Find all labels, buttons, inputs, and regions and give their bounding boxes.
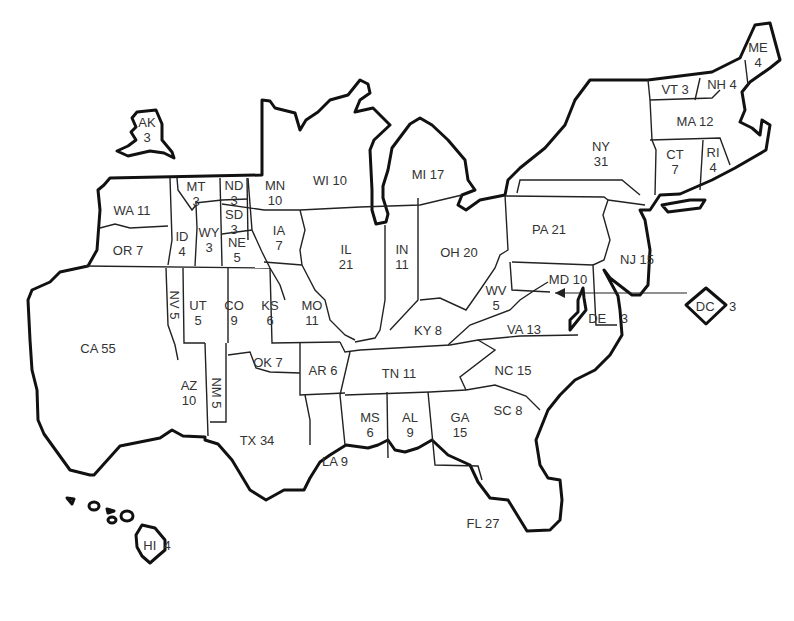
state-label-md: MD 10 bbox=[549, 272, 587, 287]
state-label-ma: MA 12 bbox=[677, 114, 714, 129]
state-label-ca: CA 55 bbox=[80, 341, 115, 356]
state-label-va: VA 13 bbox=[507, 322, 541, 337]
state-abbr: OR bbox=[113, 243, 133, 258]
state-abbr: ME bbox=[748, 40, 768, 55]
state-votes: 4 bbox=[176, 244, 189, 259]
state-abbr: NJ bbox=[620, 252, 636, 267]
state-label-co: CO9 bbox=[224, 298, 244, 328]
state-abbr: CT bbox=[666, 147, 683, 162]
state-abbr: MN bbox=[265, 178, 285, 193]
state-label-nm: NM 5 bbox=[209, 377, 224, 408]
state-label-nj: NJ 15 bbox=[620, 252, 654, 267]
state-votes: 4 bbox=[748, 55, 768, 70]
state-votes: 8 bbox=[435, 323, 442, 338]
state-abbr: MI bbox=[412, 167, 426, 182]
state-label-nc: NC 15 bbox=[495, 363, 532, 378]
state-label-in: IN11 bbox=[395, 242, 409, 272]
state-abbr: AL bbox=[402, 410, 418, 425]
state-abbr: OH bbox=[440, 245, 460, 260]
state-abbr: OK bbox=[253, 355, 272, 370]
state-label-mn: MN10 bbox=[265, 178, 285, 208]
state-votes: 17 bbox=[430, 167, 444, 182]
state-votes: 34 bbox=[260, 433, 274, 448]
state-abbr: GA bbox=[451, 410, 470, 425]
state-votes: 11 bbox=[137, 203, 151, 218]
state-abbr: MS bbox=[360, 410, 380, 425]
state-votes: 4 bbox=[164, 538, 171, 553]
state-abbr: WA bbox=[114, 203, 134, 218]
state-abbr: VA bbox=[507, 322, 523, 337]
state-label-ms: MS6 bbox=[360, 410, 380, 440]
state-label-az: AZ10 bbox=[181, 378, 198, 408]
state-label-id: ID4 bbox=[176, 229, 189, 259]
state-abbr: SC bbox=[494, 403, 512, 418]
state-abbr: NM bbox=[209, 377, 224, 397]
state-abbr: VT bbox=[661, 82, 677, 97]
state-abbr: WV bbox=[486, 283, 507, 298]
state-label-oh: OH 20 bbox=[440, 245, 478, 260]
state-label-ky: KY 8 bbox=[414, 323, 442, 338]
state-abbr: FL bbox=[467, 516, 482, 531]
state-abbr: MT bbox=[187, 179, 206, 194]
state-abbr: UT bbox=[189, 298, 206, 313]
state-abbr: DE bbox=[588, 311, 606, 326]
state-votes: 4 bbox=[730, 77, 737, 92]
state-votes: 11 bbox=[395, 257, 409, 272]
state-abbr: DC bbox=[696, 299, 715, 314]
state-votes: 4 bbox=[707, 160, 720, 175]
state-abbr: KS bbox=[261, 298, 278, 313]
state-label-la: LA 9 bbox=[322, 454, 348, 469]
state-abbr: AK bbox=[138, 115, 155, 130]
state-votes: 3 bbox=[187, 194, 206, 209]
state-label-ct: CT7 bbox=[666, 147, 683, 177]
state-votes: 3 bbox=[621, 311, 628, 326]
state-votes: 7 bbox=[136, 243, 143, 258]
state-votes: 3 bbox=[729, 299, 736, 314]
state-votes: 8 bbox=[515, 403, 522, 418]
state-votes: 11 bbox=[302, 313, 323, 328]
state-votes: 3 bbox=[199, 240, 220, 255]
state-label-ny: NY31 bbox=[592, 139, 610, 169]
state-abbr: WY bbox=[199, 225, 220, 240]
state-label-nh: NH 4 bbox=[707, 77, 737, 92]
state-abbr: RI bbox=[707, 145, 720, 160]
state-label-ne: NE5 bbox=[228, 235, 246, 265]
state-votes: 5 bbox=[228, 250, 246, 265]
state-abbr: CO bbox=[224, 298, 244, 313]
state-votes: 12 bbox=[699, 114, 713, 129]
state-abbr: NC bbox=[495, 363, 514, 378]
state-votes: 10 bbox=[333, 173, 347, 188]
state-label-mi: MI 17 bbox=[412, 167, 445, 182]
state-label-vt: VT 3 bbox=[661, 82, 688, 97]
state-label-wv: WV5 bbox=[486, 283, 507, 313]
state-label-tn: TN 11 bbox=[382, 366, 416, 381]
state-abbr: NE bbox=[228, 235, 246, 250]
state-abbr: IN bbox=[395, 242, 409, 257]
state-votes: 27 bbox=[485, 516, 499, 531]
state-abbr: AZ bbox=[181, 378, 198, 393]
state-label-fl: FL 27 bbox=[467, 516, 500, 531]
hawaii-islands bbox=[67, 498, 165, 563]
state-votes: 21 bbox=[339, 257, 353, 272]
state-votes: 15 bbox=[451, 425, 470, 440]
state-label-wi: WI 10 bbox=[313, 173, 347, 188]
state-votes: 3 bbox=[138, 130, 155, 145]
state-abbr: IL bbox=[339, 242, 353, 257]
state-label-nv: NV 5 bbox=[167, 291, 182, 320]
state-votes: 10 bbox=[573, 272, 587, 287]
state-votes: 15 bbox=[517, 363, 531, 378]
state-abbr: NH bbox=[707, 77, 726, 92]
state-label-sc: SC 8 bbox=[494, 403, 523, 418]
state-votes: 55 bbox=[101, 341, 115, 356]
state-label-wy: WY3 bbox=[199, 225, 220, 255]
state-abbr: TN bbox=[382, 366, 399, 381]
state-votes: 11 bbox=[403, 366, 417, 381]
state-label-ga: GA15 bbox=[451, 410, 470, 440]
state-abbr: MO bbox=[302, 298, 323, 313]
state-label-pa: PA 21 bbox=[532, 222, 566, 237]
state-votes: 21 bbox=[551, 222, 565, 237]
state-label-ut: UT5 bbox=[189, 298, 206, 328]
state-votes: 20 bbox=[463, 245, 477, 260]
state-abbr: WI bbox=[313, 173, 329, 188]
state-votes: 15 bbox=[640, 252, 654, 267]
